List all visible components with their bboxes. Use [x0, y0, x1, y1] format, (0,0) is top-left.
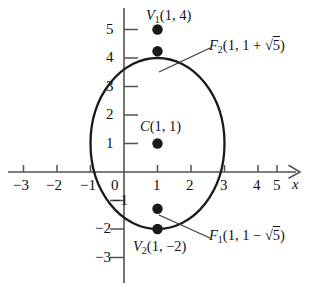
focus-bottom-leader-line — [159, 215, 210, 238]
y-tick-label-3: 3 — [106, 79, 114, 94]
label-focus-bottom: F1(1, 1 − √5) — [209, 228, 285, 245]
y-tick-label-2: 2 — [106, 107, 114, 122]
x-tick-label-3: 3 — [220, 178, 228, 193]
label-center-symbol: C — [140, 118, 150, 134]
label-focus-top-symbol: F — [209, 37, 218, 53]
label-vertex-bottom: V2(1, −2) — [133, 239, 186, 256]
x-tick-label-4: 4 — [253, 178, 261, 193]
x-tick-label--1: −1 — [80, 178, 96, 193]
label-vertex-top: V1(1, 4) — [146, 8, 191, 25]
x-tick-label--2: −2 — [46, 178, 62, 193]
label-focus-bottom-coords-prefix: (1, 1 − — [223, 227, 265, 243]
radical-sign-bottom: √ — [265, 227, 273, 243]
y-tick-label-4: 4 — [106, 50, 114, 65]
label-focus-top: F2(1, 1 + √5) — [209, 38, 285, 55]
y-tick-label--2: −2 — [95, 221, 111, 236]
label-vertex-top-symbol: V — [146, 7, 155, 23]
point-center — [152, 138, 162, 148]
point-vertex-bottom — [152, 224, 162, 234]
ellipse-figure: −3 −2 −1 0 1 2 3 4 5 x 5 4 3 2 1 −1 −2 −… — [0, 0, 319, 287]
label-focus-top-coords-prefix: (1, 1 + — [223, 37, 265, 53]
x-axis-ticks — [24, 165, 278, 172]
y-tick-label-5: 5 — [106, 22, 114, 37]
label-focus-bottom-radicand: 5 — [273, 227, 280, 243]
label-vertex-top-coords: (1, 4) — [160, 7, 191, 23]
point-vertex-top — [152, 24, 162, 34]
x-tick-label-0: 0 — [111, 178, 119, 193]
x-tick-label-5: 5 — [273, 178, 281, 193]
label-focus-top-radicand: 5 — [273, 37, 280, 53]
label-vertex-bottom-symbol: V — [133, 238, 142, 254]
point-focus-bottom — [152, 204, 162, 214]
label-focus-bottom-coords-suffix: ) — [280, 227, 285, 243]
x-tick-label-2: 2 — [186, 178, 194, 193]
label-focus-bottom-symbol: F — [209, 227, 218, 243]
label-vertex-bottom-coords: (1, −2) — [147, 238, 187, 254]
x-tick-label-1: 1 — [153, 178, 161, 193]
y-tick-label--3: −3 — [95, 250, 111, 265]
point-focus-top — [152, 46, 162, 56]
y-tick-label--1: −1 — [112, 193, 128, 208]
label-center-coords: (1, 1) — [150, 118, 181, 134]
radical-sign-top: √ — [265, 37, 273, 53]
label-focus-top-coords-suffix: ) — [280, 37, 285, 53]
x-tick-label--3: −3 — [13, 178, 29, 193]
x-axis-name: x — [292, 177, 299, 192]
focus-top-leader-line — [159, 48, 210, 72]
label-center: C(1, 1) — [140, 119, 181, 134]
y-tick-label-1: 1 — [106, 136, 114, 151]
